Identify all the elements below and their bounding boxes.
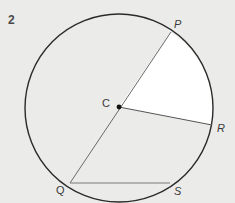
label-r: R <box>217 123 225 134</box>
diagram-canvas: 2 C P R Q S <box>0 0 235 203</box>
label-q: Q <box>56 185 65 196</box>
circle-diagram <box>0 0 235 203</box>
label-p: P <box>174 19 181 30</box>
center-point <box>117 105 122 110</box>
label-c: C <box>102 98 110 109</box>
label-s: S <box>174 186 181 197</box>
sector-pcr <box>119 32 213 125</box>
